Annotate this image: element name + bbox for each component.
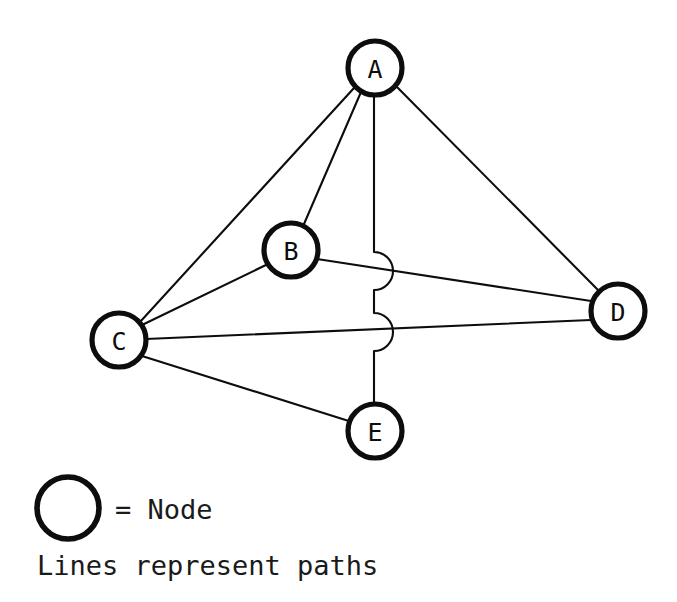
node-e-label: E [367,418,382,447]
edge-a-e[interactable] [374,95,393,404]
node-c[interactable]: C [92,313,146,367]
legend: = Node Lines represent paths [37,477,378,581]
node-b-label: B [283,237,298,266]
network-diagram: A B C D E = Node Lines represe [0,0,677,602]
node-a-label: A [367,55,382,84]
legend-node-symbol-icon [37,477,99,539]
edge-group [140,86,600,422]
edge-c-d[interactable] [146,320,591,339]
legend-node-label: = Node [115,494,213,525]
graph-canvas: A B C D E = Node Lines represe [0,0,677,602]
edge-a-d[interactable] [396,86,600,292]
node-d[interactable]: D [591,284,645,338]
node-c-label: C [111,327,126,356]
edge-b-d[interactable] [317,259,591,301]
node-a[interactable]: A [348,41,402,95]
node-e[interactable]: E [348,404,402,458]
node-group: A B C D E [92,41,645,458]
node-d-label: D [610,298,625,327]
edge-b-c[interactable] [142,264,268,325]
node-b[interactable]: B [264,223,318,277]
legend-caption: Lines represent paths [37,550,378,581]
edge-a-c[interactable] [140,88,354,322]
edge-c-e[interactable] [142,356,352,422]
